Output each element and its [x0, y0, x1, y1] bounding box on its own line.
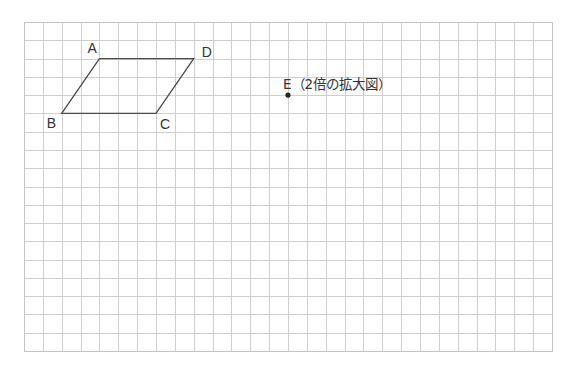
point-e-label: E（2倍の拡大図）	[283, 76, 391, 92]
vertex-label-a: A	[87, 40, 97, 56]
vertex-labels: A D C B	[47, 40, 212, 133]
vertex-label-b: B	[47, 115, 56, 131]
grid-diagram: A D C B E（2倍の拡大図）	[0, 0, 578, 374]
square-grid	[24, 22, 552, 351]
point-e-dot	[285, 93, 290, 98]
vertex-label-c: C	[160, 116, 170, 132]
vertex-label-d: D	[202, 44, 212, 60]
